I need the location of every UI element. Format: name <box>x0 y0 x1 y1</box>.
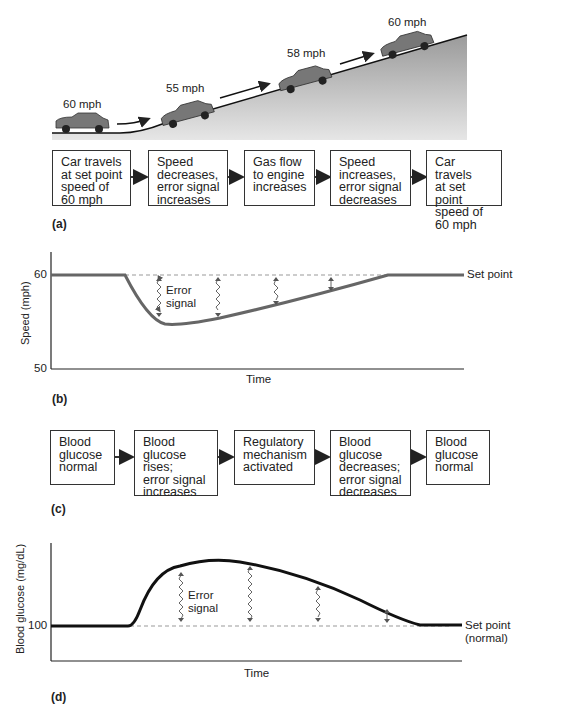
hill-road <box>52 35 467 140</box>
box-text: activated <box>243 461 308 474</box>
ytick-50: 50 <box>34 362 47 374</box>
box-text: 60 mph <box>435 219 495 232</box>
box-text: Speed <box>339 156 404 169</box>
box-text: Car travels <box>435 156 495 181</box>
box-text: increases <box>143 486 211 499</box>
flow-box-c-1: Blood glucose normal <box>50 430 115 485</box>
box-text: increases <box>157 194 221 207</box>
glucose-chart <box>51 543 462 661</box>
panel-label-c: (c) <box>51 502 66 516</box>
box-text: Speed <box>157 156 221 169</box>
error-signal-label-b: Error signal <box>166 284 196 310</box>
signal-text: signal <box>188 602 218 615</box>
y-axis-label-speed: Speed (mph) <box>19 281 31 345</box>
flow-box-a-3: Gas flow to engine increases <box>244 150 315 206</box>
normal-text: (normal) <box>465 632 510 645</box>
box-text: Regulatory <box>243 436 308 449</box>
box-text: 60 mph <box>61 194 124 207</box>
ytick-60: 60 <box>34 268 47 280</box>
box-text: Gas flow <box>253 156 308 169</box>
box-text: speed of <box>61 181 124 194</box>
box-text: error signal <box>157 181 221 194</box>
speed-label-3: 58 mph <box>287 47 325 59</box>
flow-box-a-2: Speed decreases, error signal increases <box>148 150 228 206</box>
box-text: rises; <box>143 461 211 474</box>
box-text: decreases; <box>339 461 404 474</box>
flow-box-c-5: Blood glucose normal <box>426 430 490 485</box>
error-text: Error <box>188 589 218 602</box>
x-axis-label-time: Time <box>246 373 271 385</box>
panel-label-a: (a) <box>52 217 67 231</box>
signal-text: signal <box>166 297 196 310</box>
flow-box-a-4: Speed increases, error signal decreases <box>330 150 411 206</box>
set-point-label-b: Set point <box>467 268 512 280</box>
set-point-label-d: Set point (normal) <box>465 619 510 645</box>
box-text: normal <box>435 461 483 474</box>
box-text: at set point <box>435 181 495 206</box>
box-text: Blood <box>59 436 108 449</box>
error-text: Error <box>166 284 196 297</box>
y-axis-label-glucose: Blood glucose (mg/dL) <box>14 544 26 654</box>
box-text: Blood <box>339 436 404 449</box>
box-text: speed of <box>435 206 495 219</box>
panel-label-b: (b) <box>52 392 67 406</box>
box-text: error signal <box>339 181 404 194</box>
box-text: Blood <box>435 436 483 449</box>
set-point-text: Set point <box>465 619 510 632</box>
flow-box-a-1: Car travels at set point speed of 60 mph <box>52 150 131 206</box>
box-text: normal <box>59 461 108 474</box>
flow-box-c-4: Blood glucose decreases; error signal de… <box>330 430 411 496</box>
speed-label-1: 60 mph <box>63 98 101 110</box>
speed-label-4: 60 mph <box>388 16 426 28</box>
box-text: decreases <box>339 486 404 499</box>
speed-chart <box>51 252 464 369</box>
box-text: Car travels <box>61 156 124 169</box>
panel-label-d: (d) <box>51 690 66 704</box>
car-icon-1 <box>56 113 109 133</box>
x-axis-label-time: Time <box>244 667 269 679</box>
flow-box-c-2: Blood glucose rises; error signal increa… <box>134 430 218 496</box>
speed-label-2: 55 mph <box>166 82 204 94</box>
box-text: Blood <box>143 436 211 449</box>
box-text: decreases <box>339 194 404 207</box>
ytick-100: 100 <box>28 619 47 631</box>
flow-box-a-5: Car travels at set point speed of 60 mph <box>426 150 502 206</box>
error-signal-label-d: Error signal <box>188 589 218 615</box>
box-text: increases <box>253 181 308 194</box>
flow-box-c-3: Regulatory mechanism activated <box>234 430 315 485</box>
